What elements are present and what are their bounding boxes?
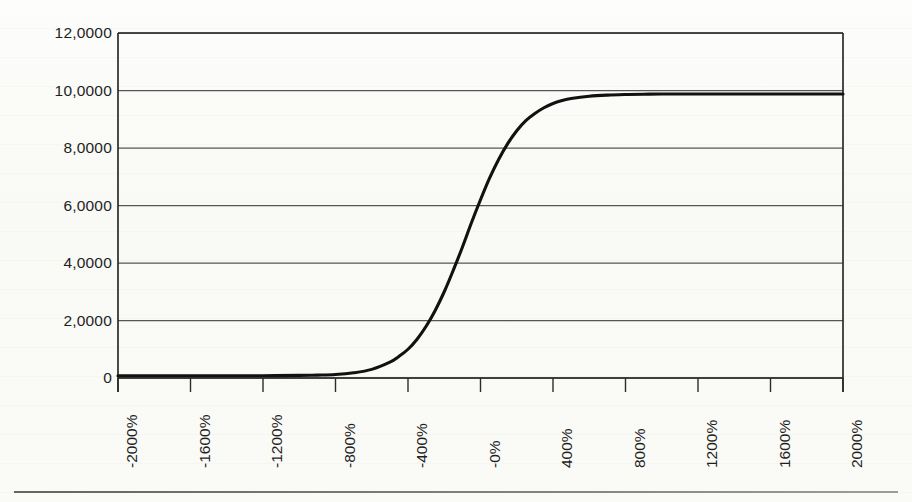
x-axis-tick-label: -800% [342,423,358,468]
page-bottom-rule [14,491,898,493]
x-axis-tick-label: -1200% [269,415,285,468]
chart-figure: 02,00004,00006,00008,000010,000012,0000 … [0,0,912,502]
x-axis-tick-label: -400% [414,423,430,468]
x-axis-tick-label: 1600% [777,420,793,468]
x-axis-tick-label: -0% [487,440,503,468]
x-axis-tick-labels: -2000%-1600%-1200%-800%-400%-0%400%800%1… [0,0,912,502]
x-axis-tick-label: 800% [632,428,648,468]
x-axis-tick-label: -2000% [124,415,140,468]
x-axis-tick-label: 1200% [704,420,720,468]
x-axis-tick-label: -1600% [197,415,213,468]
x-axis-tick-label: 400% [559,428,575,468]
x-axis-tick-label: 2000% [849,420,865,468]
